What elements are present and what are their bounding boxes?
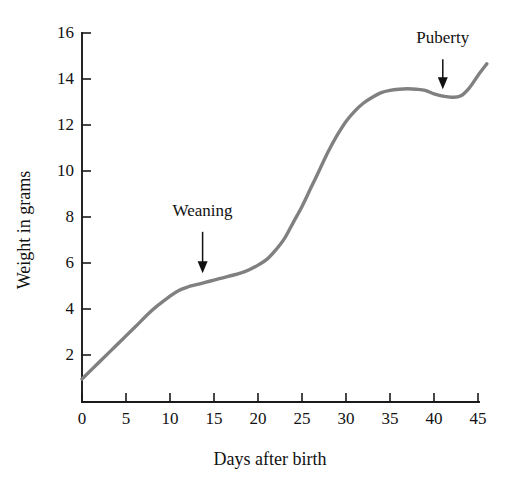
y-axis-ticks <box>82 33 91 355</box>
x-axis-title: Days after birth <box>214 449 327 469</box>
x-tick-label-5: 5 <box>122 409 131 428</box>
data-line-body-weight <box>82 64 487 379</box>
x-tick-label-45: 45 <box>470 409 487 428</box>
annotation-weaning: Weaning <box>173 201 233 274</box>
y-tick-label-2: 2 <box>66 345 75 364</box>
x-tick-label-15: 15 <box>206 409 223 428</box>
y-tick-label-16: 16 <box>57 23 74 42</box>
y-tick-label-10: 10 <box>57 161 74 180</box>
x-tick-label-30: 30 <box>338 409 355 428</box>
chart-figure: 16 14 12 10 8 6 4 2 0 5 10 15 20 25 30 3… <box>0 0 513 484</box>
x-tick-label-35: 35 <box>382 409 399 428</box>
annotation-label-weaning: Weaning <box>173 201 233 220</box>
annotation-puberty: Puberty <box>416 28 469 89</box>
y-tick-label-6: 6 <box>66 253 75 272</box>
x-axis-ticks <box>82 393 478 402</box>
x-tick-label-0: 0 <box>78 409 87 428</box>
annotation-label-puberty: Puberty <box>416 28 469 47</box>
growth-curve-chart: 16 14 12 10 8 6 4 2 0 5 10 15 20 25 30 3… <box>0 0 513 484</box>
x-tick-label-40: 40 <box>426 409 443 428</box>
x-tick-label-25: 25 <box>294 409 311 428</box>
y-tick-label-12: 12 <box>57 115 74 134</box>
x-tick-label-20: 20 <box>250 409 267 428</box>
x-tick-label-10: 10 <box>162 409 179 428</box>
annotation-arrowhead-weaning <box>198 261 208 273</box>
y-axis-title: Weight in grams <box>14 171 34 290</box>
y-tick-label-8: 8 <box>66 207 75 226</box>
y-tick-label-4: 4 <box>66 299 75 318</box>
annotation-arrowhead-puberty <box>438 77 448 89</box>
y-tick-label-14: 14 <box>57 69 75 88</box>
